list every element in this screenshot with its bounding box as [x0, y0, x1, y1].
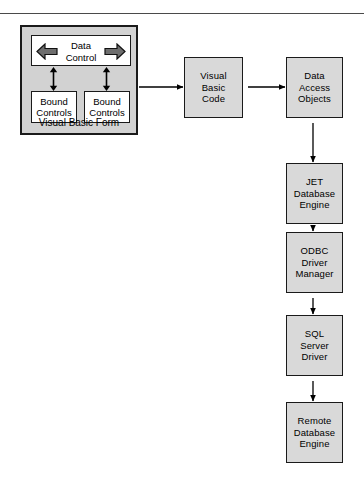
- visual-basic-form-caption: Visual Basic Form: [22, 117, 136, 129]
- remote-database-engine-line2: Database: [294, 427, 335, 438]
- visual-basic-form-panel: Data Control: [20, 25, 138, 135]
- jet-database-engine-line3: Engine: [299, 199, 329, 210]
- visual-basic-form-inner: Data Control: [22, 27, 136, 133]
- remote-database-engine-line1: Remote: [298, 415, 332, 426]
- visual-basic-code-line3: Code: [202, 93, 225, 104]
- visual-basic-code-line1: Visual: [200, 70, 226, 81]
- odbc-driver-manager-line2: Driver: [302, 257, 328, 268]
- sql-server-driver-line3: Driver: [302, 351, 328, 362]
- node-sql-server-driver: SQL Server Driver: [286, 315, 343, 376]
- sql-server-driver-line2: Server: [300, 340, 329, 351]
- odbc-driver-manager-line3: Manager: [295, 268, 333, 279]
- bound-left-line1: Bound: [40, 96, 67, 107]
- remote-database-engine-line3: Engine: [299, 438, 329, 449]
- right-block-arrow-icon: [104, 43, 126, 60]
- node-data-access-objects: Data Access Objects: [286, 57, 343, 118]
- double-arrow-icon-right: [102, 67, 111, 91]
- figure-flow-diagram: Data Control: [0, 0, 364, 480]
- left-block-arrow-icon: [36, 43, 58, 60]
- sql-server-driver-line1: SQL: [305, 328, 324, 339]
- jet-database-engine-line2: Database: [294, 188, 335, 199]
- data-access-objects-line2: Access: [299, 82, 330, 93]
- odbc-driver-manager-line1: ODBC: [301, 245, 329, 256]
- node-jet-database-engine: JET Database Engine: [286, 163, 343, 224]
- node-visual-basic-code: Visual Basic Code: [184, 57, 243, 118]
- data-access-objects-line3: Objects: [298, 93, 331, 104]
- node-remote-database-engine: Remote Database Engine: [286, 402, 343, 463]
- header-rule: [0, 13, 364, 14]
- data-access-objects-line1: Data: [304, 70, 324, 81]
- double-arrow-icon-left: [49, 67, 58, 91]
- node-odbc-driver-manager: ODBC Driver Manager: [286, 232, 343, 293]
- bound-right-line1: Bound: [93, 96, 120, 107]
- data-control-widget: Data Control: [31, 35, 131, 66]
- visual-basic-code-line2: Basic: [202, 82, 226, 93]
- jet-database-engine-line1: JET: [306, 176, 323, 187]
